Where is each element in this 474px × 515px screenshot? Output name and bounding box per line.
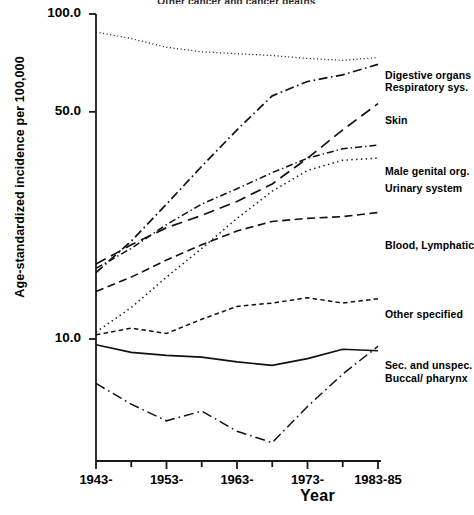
legend-label-male-genital-org: Male genital org. (385, 165, 470, 177)
series-line-other-specified (96, 298, 378, 335)
legend-label-sec-and-unspec: Sec. and unspec. (385, 359, 472, 371)
series-line-digestive-organs (96, 32, 378, 60)
legend-label-digestive-organs: Digestive organs (385, 69, 471, 81)
y-tick-label: 100.0 (11, 5, 81, 20)
legend-label-urinary-system: Urinary system (385, 182, 462, 194)
legend-label-skin: Skin (385, 114, 408, 126)
series-line-blood-lymphatic (96, 213, 378, 292)
legend-label-respiratory-sys: Respiratory sys. (385, 81, 468, 93)
y-tick-label: 10.0 (11, 330, 81, 345)
series-line-male-genital-org (96, 145, 378, 268)
series-line-skin (96, 104, 378, 264)
series-line-buccal-pharynx (96, 346, 378, 442)
series-line-sec-and-unspec (96, 345, 378, 366)
legend-label-buccal-pharynx: Buccal/ pharynx (385, 372, 468, 384)
legend-label-other-specified: Other specified (385, 308, 463, 320)
series-line-respiratory-sys (96, 64, 378, 272)
legend-label-blood-lymphatic: Blood, Lymphatic (385, 239, 474, 251)
y-tick-label: 50.0 (11, 103, 81, 118)
x-tick-label: 1983-85 (333, 472, 423, 487)
